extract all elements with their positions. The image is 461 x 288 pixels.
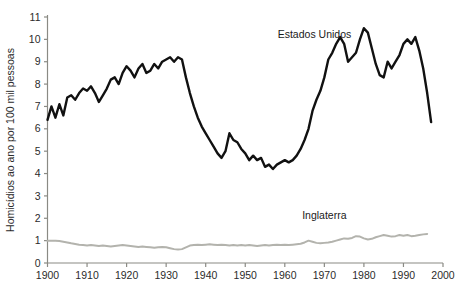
y-tick-label: 2: [35, 212, 41, 224]
series-annotations: Estados UnidosInglaterra: [278, 28, 352, 221]
y-tick-label: 4: [35, 167, 41, 179]
x-tick-label: 1920: [115, 269, 139, 281]
x-tick-label: 1950: [234, 269, 258, 281]
y-tick-label: 11: [30, 11, 41, 23]
series-annotation-inglaterra: Inglaterra: [302, 209, 347, 221]
data-series-group: [48, 28, 432, 249]
x-tick-label: 1910: [75, 269, 99, 281]
chart-plot-area: Homicídios ao ano por 100 mil pessoas 01…: [0, 0, 461, 288]
y-tick-label: 0: [35, 257, 41, 269]
x-tick-label: 1980: [352, 269, 376, 281]
y-tick-label: 3: [35, 190, 41, 202]
x-tick-label: 2000: [431, 269, 455, 281]
y-tick-label: 8: [35, 78, 41, 90]
series-annotation-estados-unidos: Estados Unidos: [278, 28, 352, 40]
x-tick-label: 1990: [392, 269, 416, 281]
x-tick-label: 1940: [194, 269, 218, 281]
y-tick-label: 5: [35, 145, 41, 157]
x-tick-label: 1930: [154, 269, 178, 281]
y-axis-title-text: Homicídios ao ano por 100 mil pessoas: [4, 48, 16, 232]
series-line-estados-unidos: [48, 28, 432, 169]
series-line-inglaterra: [48, 234, 428, 250]
y-tick-label: 10: [29, 33, 41, 45]
y-tick-label: 9: [35, 55, 41, 67]
x-tick-label: 1960: [273, 269, 297, 281]
y-tick-label: 1: [35, 234, 41, 246]
y-axis: 01234567891011: [29, 11, 48, 269]
y-tick-label: 7: [35, 100, 41, 112]
x-axis: 1900191019201930194019501960197019801990…: [36, 263, 455, 281]
homicide-rate-chart: Homicídios ao ano por 100 mil pessoas 01…: [0, 0, 461, 288]
y-tick-label: 6: [35, 122, 41, 134]
x-tick-label: 1900: [36, 269, 60, 281]
y-axis-title: Homicídios ao ano por 100 mil pessoas: [4, 48, 16, 232]
x-tick-label: 1970: [313, 269, 337, 281]
